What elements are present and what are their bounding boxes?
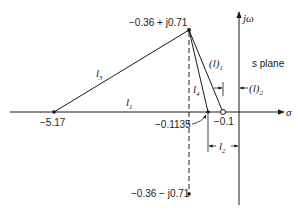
s-plane-diagram: −0.36 + j0.71 −0.36 − j0.71 −5.17 −0.113… bbox=[0, 0, 298, 211]
line-l3 bbox=[54, 30, 189, 112]
label-l1: l1 bbox=[126, 96, 133, 111]
pole-upper-marker bbox=[187, 28, 191, 32]
label-l4: l4 bbox=[193, 83, 200, 98]
plane-label: s plane bbox=[252, 58, 285, 69]
pole-near-marker bbox=[206, 110, 210, 114]
label-paren-l2: (l)2 bbox=[249, 82, 263, 97]
label-pole-near: −0.1135 bbox=[155, 119, 191, 130]
leader-arrow bbox=[192, 115, 206, 124]
pole-far-marker bbox=[52, 110, 56, 114]
imag-axis-label: jω bbox=[241, 12, 254, 24]
label-paren-l1: (l)1 bbox=[209, 57, 223, 72]
line-paren-l1 bbox=[189, 30, 222, 110]
label-pole-far: −5.17 bbox=[40, 117, 66, 128]
label-pole-upper: −0.36 + j0.71 bbox=[129, 17, 188, 28]
label-zero: −0.1 bbox=[214, 116, 234, 127]
real-axis-label: σ bbox=[286, 106, 292, 118]
line-l4 bbox=[189, 30, 208, 112]
label-l2: l2 bbox=[219, 140, 226, 155]
label-l3: l3 bbox=[96, 67, 103, 82]
zero-marker bbox=[221, 110, 226, 115]
label-pole-lower: −0.36 − j0.71 bbox=[131, 188, 190, 199]
